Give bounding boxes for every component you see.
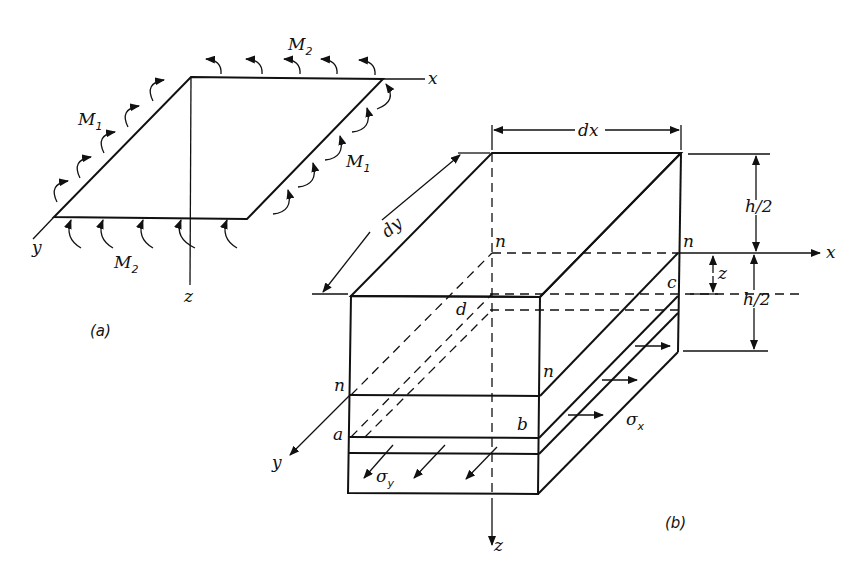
top-diagonal-edge <box>540 153 681 297</box>
moment-arrows-left <box>54 80 164 202</box>
m2-bottom-label: M2 <box>113 252 138 276</box>
front-neutral-line <box>350 395 540 396</box>
caption-a: (a) <box>90 322 111 340</box>
dy-label: dy <box>377 213 406 242</box>
plate-bending-diagram: x y z M2 M1 M1 <box>0 0 854 579</box>
dy-arrow-top <box>382 155 460 220</box>
point-n-back-right: n <box>683 231 694 251</box>
figure-a: x y z M2 M1 M1 <box>31 34 438 340</box>
m1-left-label: M1 <box>77 109 102 133</box>
z-label-b: z <box>493 535 504 555</box>
point-n-back-left: n <box>495 231 506 251</box>
right-bottom-edge <box>538 352 678 494</box>
m2-top-label: M2 <box>287 34 312 58</box>
moment-arrows-bottom <box>69 220 237 248</box>
y-label-b: y <box>271 452 282 472</box>
x-label-a: x <box>428 68 438 88</box>
moment-arrows-right <box>273 84 390 214</box>
z-axis-a <box>190 77 191 285</box>
sigma-x-label: σx <box>626 409 645 433</box>
sigma-y-label: σy <box>376 466 395 490</box>
point-b: b <box>517 414 528 434</box>
point-d: d <box>456 299 467 319</box>
z-dim-label: z <box>717 263 728 283</box>
moment-arrows-top <box>206 59 375 75</box>
front-ab-line <box>349 437 539 438</box>
dx-label: dx <box>578 120 599 140</box>
caption-b: (b) <box>665 514 686 532</box>
figure-b: x y z dx dy h/2 h/2 z n n n n <box>271 120 836 555</box>
m1-right-label: M1 <box>345 151 370 175</box>
point-n-front-left: n <box>334 375 345 395</box>
h-bottom-label: h/2 <box>743 289 771 309</box>
x-label-b: x <box>826 242 836 262</box>
h-top-label: h/2 <box>745 196 773 216</box>
point-a: a <box>333 424 343 444</box>
plate-outline <box>54 77 383 219</box>
z-label-a: z <box>183 286 194 306</box>
y-label-a: y <box>31 237 42 257</box>
right-layer-line-2 <box>539 313 678 454</box>
hidden-lines <box>351 153 800 500</box>
point-c: c <box>667 272 677 292</box>
front-layer-line <box>349 453 539 454</box>
point-n-front-right: n <box>543 361 554 381</box>
y-axis-a <box>33 217 54 239</box>
right-layer-line-1 <box>539 296 678 438</box>
